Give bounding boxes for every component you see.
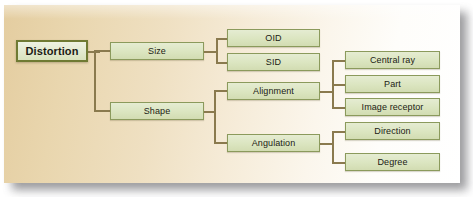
node-sid[interactable]: SID xyxy=(227,53,320,71)
connector-angulation-trunk xyxy=(332,131,334,163)
node-label: Distortion xyxy=(26,46,79,57)
connector-alignment-to-central-ray xyxy=(332,60,346,62)
node-label: Part xyxy=(384,80,401,89)
connector-angulation-to-degree xyxy=(332,162,346,164)
node-image-receptor[interactable]: Image receptor xyxy=(345,98,440,116)
node-label: Alignment xyxy=(253,87,294,96)
node-central-ray[interactable]: Central ray xyxy=(345,51,440,69)
node-label: OID xyxy=(265,34,281,43)
diagram-panel: Distortion Size Shape OID SID Alignment … xyxy=(4,5,460,183)
node-shape[interactable]: Shape xyxy=(110,102,204,120)
connector-root-to-shape xyxy=(94,110,111,112)
connector-size-trunk xyxy=(216,38,218,64)
connector-shape-to-angulation xyxy=(214,142,228,144)
node-label: Shape xyxy=(144,107,171,116)
connector-angulation-to-direction xyxy=(332,131,346,133)
node-distortion[interactable]: Distortion xyxy=(16,40,88,62)
node-label: SID xyxy=(266,58,281,67)
node-label: Image receptor xyxy=(362,103,424,112)
connector-shape-trunk xyxy=(214,90,216,144)
node-degree[interactable]: Degree xyxy=(345,153,440,171)
connector-shape-to-alignment xyxy=(214,90,228,92)
node-label: Degree xyxy=(377,158,407,167)
node-angulation[interactable]: Angulation xyxy=(227,134,320,152)
node-size[interactable]: Size xyxy=(110,42,204,60)
node-oid[interactable]: OID xyxy=(227,29,320,47)
node-alignment[interactable]: Alignment xyxy=(227,82,320,100)
connector-alignment-to-image-receptor xyxy=(332,107,346,109)
node-part[interactable]: Part xyxy=(345,75,440,93)
connector-root-trunk xyxy=(94,50,96,111)
connector-root-to-size xyxy=(94,50,111,52)
node-label: Direction xyxy=(374,127,410,136)
panel-highlight xyxy=(4,5,460,19)
node-direction[interactable]: Direction xyxy=(345,122,440,140)
node-label: Angulation xyxy=(252,139,296,148)
connector-alignment-to-part xyxy=(332,84,346,86)
node-label: Size xyxy=(148,47,166,56)
diagram-canvas: Distortion Size Shape OID SID Alignment … xyxy=(0,0,473,197)
node-label: Central ray xyxy=(370,56,415,65)
